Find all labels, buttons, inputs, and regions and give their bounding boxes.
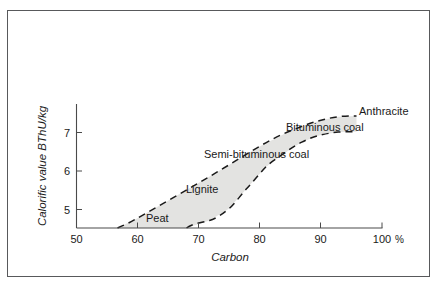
x-axis-title: Carbon (211, 251, 249, 263)
y-tick-label-6: 6 (64, 165, 70, 177)
y-tick-label-7: 7 (64, 127, 70, 139)
x-tick-label-70: 70 (192, 233, 204, 245)
annotation-semi-bituminous-coal: Semi-bituminous coal (204, 148, 309, 160)
annotation-anthracite: Anthracite (359, 105, 409, 117)
figure-page: 7 6 5 50 60 70 80 90 100 % Carbon Calori… (0, 0, 445, 285)
annotation-peat: Peat (146, 212, 169, 224)
x-tick-label-80: 80 (253, 233, 265, 245)
y-tick-label-5: 5 (64, 204, 70, 216)
x-tick-label-100: 100 (373, 233, 391, 245)
x-axis-percent-symbol: % (395, 234, 404, 245)
annotation-bituminous-coal: Bituminous coal (286, 121, 364, 133)
y-axis-title: Calorific value BThU/kg (36, 105, 48, 226)
coal-calorific-value-chart: 7 6 5 50 60 70 80 90 100 % Carbon Calori… (0, 0, 445, 285)
x-tick-label-90: 90 (314, 233, 326, 245)
annotation-lignite: Lignite (186, 183, 218, 195)
x-tick-label-60: 60 (131, 233, 143, 245)
x-tick-label-50: 50 (70, 233, 82, 245)
